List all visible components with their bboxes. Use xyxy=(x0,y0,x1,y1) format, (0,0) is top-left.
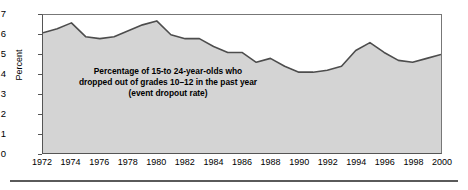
annotation-line-2: dropped out of grades 10–12 in the past … xyxy=(52,77,284,88)
y-tick-mark-0 xyxy=(38,154,42,155)
annotation-line-3: (event dropout rate) xyxy=(52,88,284,99)
y-tick-label-2: 2 xyxy=(0,109,6,119)
chart-annotation: Percentage of 15-to 24-year-olds who dro… xyxy=(52,66,284,99)
y-tick-label-3: 3 xyxy=(0,89,6,99)
y-axis-title: Percent xyxy=(14,30,24,100)
y-tick-label-1: 1 xyxy=(0,129,6,139)
y-tick-label-0: 0 xyxy=(0,149,6,159)
annotation-line-1: Percentage of 15-to 24-year-olds who xyxy=(52,66,284,77)
x-tick-label-2000: 2000 xyxy=(422,158,462,167)
event-dropout-rate-chart: Percent 01234567 19721974197619781980198… xyxy=(0,0,468,190)
y-tick-label-5: 5 xyxy=(0,49,6,59)
y-tick-label-6: 6 xyxy=(0,29,6,39)
y-tick-label-7: 7 xyxy=(0,9,6,19)
y-tick-label-4: 4 xyxy=(0,69,6,79)
footer-divider xyxy=(10,180,458,182)
